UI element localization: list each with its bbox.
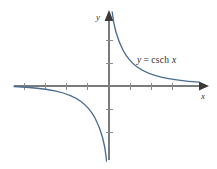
csch-function-plot: y x y=csch x bbox=[0, 0, 217, 169]
equation-function: csch bbox=[151, 55, 169, 65]
x-axis-arrow-icon bbox=[199, 82, 209, 91]
x-axis-label: x bbox=[200, 91, 205, 101]
csch-negative-branch bbox=[14, 87, 107, 162]
y-axis-label: y bbox=[95, 12, 100, 22]
plot-canvas: y x bbox=[0, 0, 217, 169]
equation-argument: x bbox=[172, 55, 177, 65]
equation-lhs: y bbox=[137, 55, 142, 65]
curve-equation-label: y=csch x bbox=[137, 55, 177, 65]
csch-positive-branch bbox=[112, 12, 199, 82]
equation-operator: = bbox=[142, 55, 152, 65]
